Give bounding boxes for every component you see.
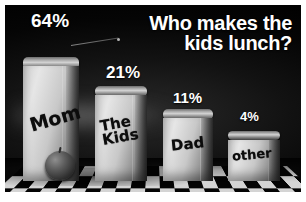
apple-prop: [45, 151, 75, 180]
value-label-dad: 11%: [173, 89, 202, 106]
title-line-2: kids lunch?: [132, 33, 292, 53]
bar-other: other: [228, 131, 280, 181]
bag-top-roll: [228, 131, 280, 140]
value-label-mom: 64%: [31, 10, 69, 32]
value-label-kids: 21%: [106, 63, 140, 83]
bag-handwriting-other: other: [232, 147, 273, 163]
title-line-1: Who makes the: [149, 12, 292, 34]
bag-handwriting-dad: Dad: [170, 135, 205, 153]
bag-handwriting-kids: The Kids: [99, 113, 140, 147]
bar-dad: Dad: [163, 109, 213, 181]
value-label-other: 4%: [240, 109, 259, 124]
chart-image: Who makes the kids lunch? 64% 21% 11% 4%…: [5, 5, 301, 192]
leader-line: [71, 39, 121, 49]
bar-kids: The Kids: [95, 86, 147, 181]
chart-title: Who makes the kids lunch?: [132, 13, 292, 53]
